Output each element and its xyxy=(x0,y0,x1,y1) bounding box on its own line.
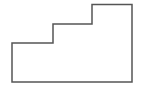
staircase-diagram xyxy=(0,0,141,89)
staircase-shape xyxy=(12,5,132,83)
